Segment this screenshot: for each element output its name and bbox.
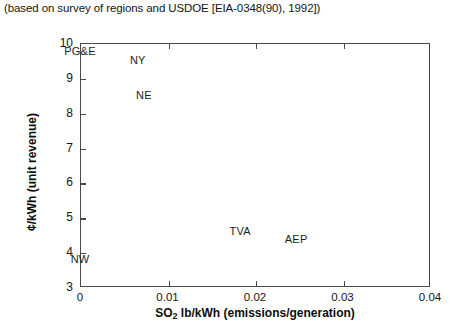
x-tick-label: 0.01 [156,291,178,303]
x-axis-title-base: SO [155,306,172,320]
x-tick-bottom [256,281,257,286]
x-tick-label: 0.02 [244,291,266,303]
x-tick-bottom [344,281,345,286]
y-tick-label: 6 [40,175,73,189]
data-point-tva: TVA [230,225,251,237]
x-axis-title-subscript: 2 [172,311,177,321]
x-tick-label: 0.03 [331,291,353,303]
data-point-ne: NE [136,89,152,101]
y-tick-label: 8 [40,106,73,120]
x-axis-title: SO2 lb/kWh (emissions/generation) [80,306,430,320]
y-tick-left [81,114,86,115]
data-point-pg-e: PG&E [64,45,95,57]
y-tick-label: 5 [40,210,73,224]
x-tick-label: 0 [77,291,83,303]
y-tick-left [81,149,86,150]
x-tick-top [344,44,345,49]
data-point-aep: AEP [285,233,308,245]
data-point-ny: NY [130,54,146,66]
x-tick-top [256,44,257,49]
y-tick-label: 7 [40,141,73,155]
scatter-chart: 00.010.020.030.04345678910 PG&ENYNETVAAE… [0,0,452,328]
y-tick-left [81,183,86,184]
x-tick-label: 0.04 [419,291,441,303]
y-tick-label: 9 [40,71,73,85]
y-tick-left [81,218,86,219]
x-axis-title-rest: lb/kWh (emissions/generation) [178,306,355,320]
x-tick-bottom [169,281,170,286]
y-tick-label: 3 [40,280,73,294]
x-tick-top [169,44,170,49]
y-axis-title: ¢/kWh (unit revenue) [25,77,39,267]
plot-area [80,43,430,287]
data-point-nw: NW [71,253,90,265]
y-tick-left [81,79,86,80]
y-tick-label: 4 [40,245,73,259]
